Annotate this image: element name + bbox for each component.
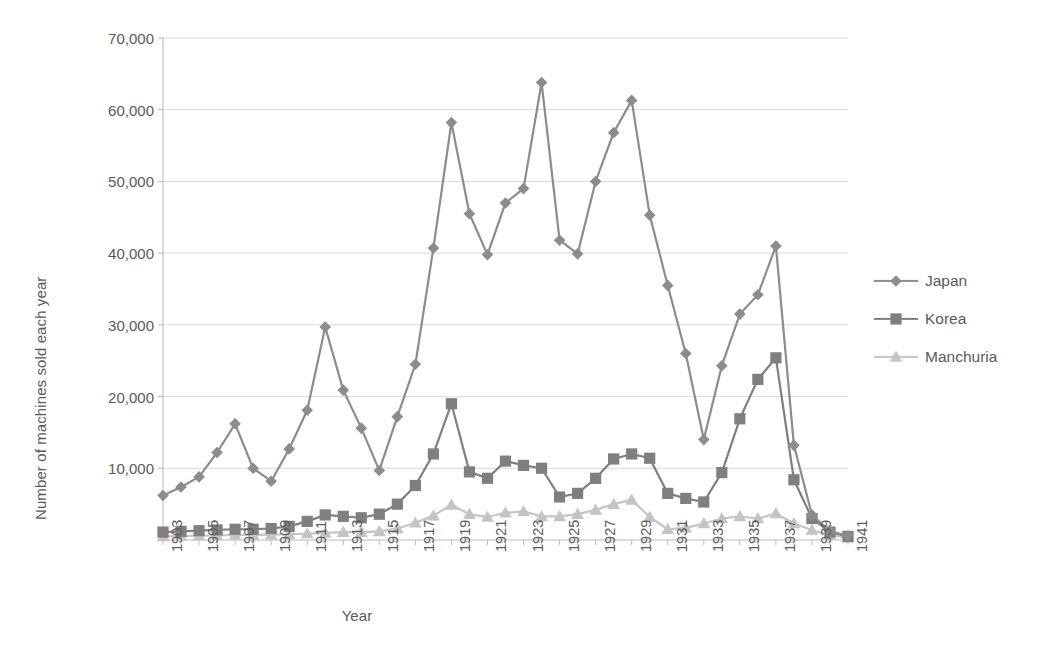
- legend-swatch-square-icon: [874, 312, 918, 326]
- x-tick-label: 1923: [530, 520, 546, 552]
- legend-marker-icon: [887, 272, 905, 290]
- x-tick-label: 1917: [421, 520, 437, 552]
- x-tick-label: 1915: [385, 520, 401, 552]
- x-tick-label: 1903: [169, 520, 185, 552]
- x-tick-label: 1911: [313, 521, 329, 552]
- x-tick-label: 1941: [854, 520, 870, 552]
- legend-item-korea[interactable]: Korea: [874, 300, 1034, 338]
- x-tick-label: 1925: [566, 520, 582, 552]
- x-tick-label: 1929: [638, 520, 654, 552]
- x-tick-label: 1921: [493, 520, 509, 552]
- x-tick-label: 1931: [674, 520, 690, 552]
- legend-item-manchuria[interactable]: Manchuria: [874, 338, 1034, 376]
- x-tick-label: 1909: [277, 520, 293, 552]
- x-tick-label: 1937: [782, 520, 798, 552]
- x-tick-label: 1939: [818, 520, 834, 552]
- x-tick-label: 1927: [602, 520, 618, 552]
- x-tick-label: 1905: [205, 520, 221, 552]
- legend-marker-icon: [887, 348, 905, 366]
- legend-swatch-triangle-icon: [874, 350, 918, 364]
- legend-label: Japan: [925, 272, 967, 290]
- legend-swatch-diamond-icon: [874, 274, 918, 288]
- chart-legend: JapanKoreaManchuria: [874, 262, 1034, 376]
- legend-item-japan[interactable]: Japan: [874, 262, 1034, 300]
- x-tick-label: 1907: [241, 520, 257, 552]
- line-chart: Number of machines sold each year Year 7…: [0, 0, 1044, 651]
- x-tick-label: 1913: [349, 520, 365, 552]
- legend-marker-icon: [887, 310, 905, 328]
- x-tick-label: 1935: [746, 520, 762, 552]
- legend-label: Manchuria: [925, 348, 997, 366]
- x-tick-label: 1919: [457, 520, 473, 552]
- x-tick-label: 1933: [710, 520, 726, 552]
- legend-label: Korea: [925, 310, 966, 328]
